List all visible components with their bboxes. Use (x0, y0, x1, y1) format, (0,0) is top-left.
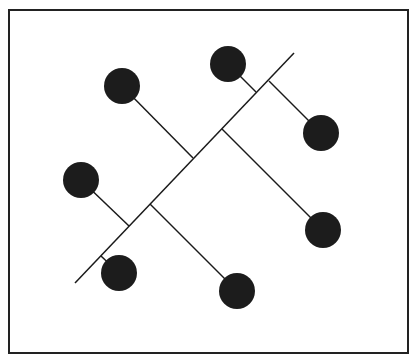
node-circle (305, 212, 341, 248)
node-circle (63, 162, 99, 198)
diagram-canvas (0, 0, 417, 360)
nodes (63, 46, 341, 309)
node-circle (303, 115, 339, 151)
node-circle (104, 68, 140, 104)
node-circle (101, 255, 137, 291)
branch-line (150, 204, 237, 291)
node-circle (210, 46, 246, 82)
node-circle (219, 273, 255, 309)
